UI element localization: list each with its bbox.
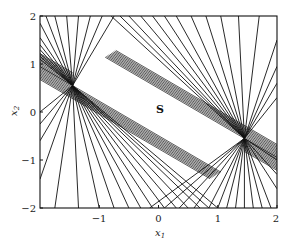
x-tick-label: 2 — [273, 213, 279, 224]
y-tick-label: 0 — [30, 107, 36, 118]
y-tick-label: −1 — [21, 155, 36, 166]
x-tick-label: 0 — [155, 213, 161, 224]
y-tick-label: −2 — [21, 203, 36, 214]
region-s-label: S — [156, 103, 164, 116]
y-axis-label: x2 — [8, 105, 21, 116]
x-tick-label: 1 — [215, 213, 221, 224]
phase-portrait-chart: 2 1 0 −1 −2 −1 0 1 2 x1 x2 S — [0, 0, 288, 242]
x-tick-label: −1 — [92, 213, 107, 224]
x-axis-label: x1 — [155, 227, 165, 240]
y-tick-label: 2 — [30, 11, 36, 22]
y-tick-label: 1 — [30, 59, 36, 70]
